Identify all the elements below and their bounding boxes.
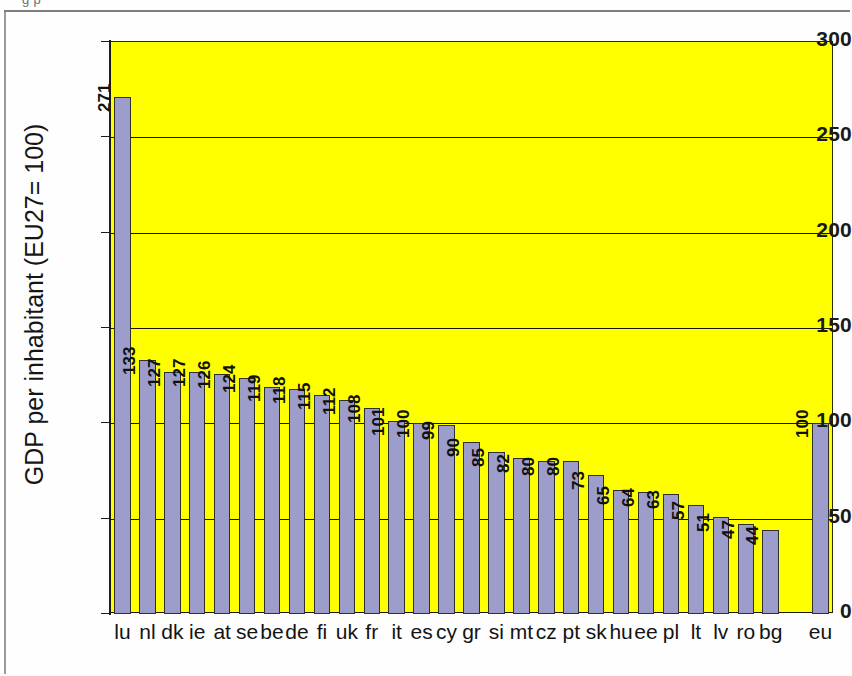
bar-value-label-be: 119	[245, 375, 265, 402]
plot-area: 2711331271271261241191181151121081011009…	[110, 41, 833, 613]
bar-value-label-lv: 51	[694, 513, 714, 532]
y-axis-tick-200	[101, 232, 110, 233]
y-axis-tick-label-200: 200	[760, 218, 852, 242]
bar-value-label-hu: 65	[594, 486, 614, 505]
bar-value-label-uk: 112	[320, 388, 340, 415]
y-axis-tick-label-100: 100	[760, 408, 852, 432]
gdp-per-inhabitant-bar-chart: GDP per inhabitant (EU27= 100) 271133127…	[0, 0, 852, 676]
y-axis-tick-250	[101, 136, 110, 137]
bar-fr	[364, 408, 380, 614]
x-axis-label-eu: eu	[791, 620, 851, 644]
gridline-250	[110, 137, 832, 138]
bar-mt	[513, 458, 529, 614]
y-axis-tick-label-50: 50	[760, 504, 852, 528]
bar-value-label-ee: 64	[619, 488, 639, 507]
bar-value-label-ro: 47	[719, 520, 739, 539]
bar-value-label-pt: 80	[544, 458, 564, 477]
bar-value-label-cy: 99	[419, 421, 439, 440]
y-axis-tick-label-250: 250	[760, 122, 852, 146]
bar-fi	[314, 395, 330, 614]
y-axis-title: GDP per inhabitant (EU27= 100)	[20, 25, 49, 585]
bar-value-label-ie: 127	[170, 358, 190, 386]
bar-value-label-se: 124	[220, 364, 240, 392]
bar-value-label-nl: 133	[120, 347, 140, 375]
bar-dk	[164, 372, 180, 614]
y-axis-tick-label-150: 150	[760, 313, 852, 337]
bar-value-label-si: 85	[469, 448, 489, 467]
bar-value-label-at: 126	[195, 360, 215, 388]
bar-si	[488, 452, 504, 614]
bar-value-label-bg: 44	[743, 526, 763, 545]
bar-ie	[189, 372, 205, 614]
bar-value-label-lu: 271	[95, 84, 115, 112]
bar-value-label-sk: 73	[569, 471, 589, 490]
bar-nl	[139, 360, 155, 614]
y-axis-tick-300	[101, 41, 110, 42]
bar-value-label-de: 118	[270, 377, 290, 404]
bar-it	[388, 421, 404, 614]
bar-be	[264, 387, 280, 614]
bar-value-label-lt: 57	[669, 501, 689, 520]
bar-value-label-fi: 115	[295, 382, 315, 409]
bar-ee	[638, 492, 654, 614]
bar-uk	[339, 400, 355, 614]
bar-es	[413, 423, 429, 614]
bar-value-label-it: 101	[369, 408, 389, 436]
bar-value-label-es: 100	[394, 410, 414, 438]
bar-value-label-pl: 63	[644, 490, 664, 509]
y-axis-tick-150	[101, 327, 110, 328]
bar-gr	[463, 442, 479, 614]
y-axis-tick-100	[101, 422, 110, 423]
gridline-200	[110, 233, 832, 234]
y-axis-tick-50	[101, 518, 110, 519]
bar-value-label-fr: 108	[345, 395, 365, 423]
bar-de	[289, 389, 305, 614]
y-axis-tick-label-300: 300	[760, 27, 852, 51]
bar-se	[239, 378, 255, 614]
bar-value-label-gr: 90	[444, 438, 464, 457]
gridline-150	[110, 328, 832, 329]
bar-value-label-cz: 80	[519, 458, 539, 477]
bar-at	[214, 374, 230, 614]
bar-hu	[613, 490, 629, 614]
bar-value-label-dk: 127	[145, 358, 165, 386]
y-axis-tick-0	[101, 613, 110, 614]
bar-cz	[538, 461, 554, 614]
bar-value-label-mt: 82	[494, 454, 514, 473]
